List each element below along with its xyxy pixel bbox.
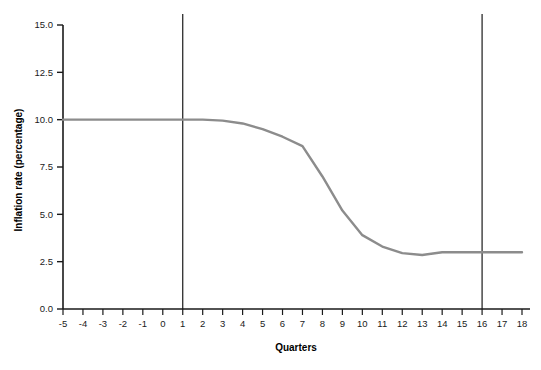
reference-lines bbox=[183, 14, 482, 309]
x-axis-tick-label: 14 bbox=[437, 318, 448, 329]
series-line-inflation-rate bbox=[63, 120, 522, 255]
y-axis-tick-label: 15.0 bbox=[35, 19, 54, 30]
inflation-rate-line-chart: 0.02.55.07.510.012.515.0 -5-4-3-2-101234… bbox=[0, 0, 541, 370]
x-axis-tick-label: 15 bbox=[457, 318, 468, 329]
x-axis-tick-label: 0 bbox=[160, 318, 165, 329]
x-axis-tick-label: 17 bbox=[497, 318, 508, 329]
data-series bbox=[63, 120, 522, 255]
x-axis-tick-label: 16 bbox=[477, 318, 488, 329]
x-axis-title: Quarters bbox=[275, 342, 317, 353]
y-axis: 0.02.55.07.510.012.515.0 bbox=[35, 19, 64, 314]
x-axis-tick-label: 9 bbox=[340, 318, 345, 329]
x-axis-tick-label: 10 bbox=[357, 318, 368, 329]
x-axis-tick-label: -1 bbox=[139, 318, 147, 329]
x-axis-tick-label: -2 bbox=[119, 318, 127, 329]
x-axis-tick-label: 8 bbox=[320, 318, 325, 329]
x-axis-tick-label: 2 bbox=[200, 318, 205, 329]
x-axis-tick-label: 3 bbox=[220, 318, 225, 329]
x-axis: -5-4-3-2-10123456789101112131415161718 bbox=[59, 309, 530, 329]
x-axis-tick-label: 1 bbox=[180, 318, 185, 329]
y-axis-title: Inflation rate (percentage) bbox=[13, 109, 24, 232]
y-axis-tick-label: 5.0 bbox=[40, 209, 53, 220]
y-axis-tick-label: 10.0 bbox=[35, 114, 54, 125]
y-axis-tick-label: 0.0 bbox=[40, 303, 53, 314]
y-axis-tick-label: 7.5 bbox=[40, 161, 53, 172]
x-axis-tick-label: 7 bbox=[300, 318, 305, 329]
y-axis-tick-label: 12.5 bbox=[35, 67, 54, 78]
x-axis-tick-label: -5 bbox=[59, 318, 67, 329]
x-axis-tick-label: 6 bbox=[280, 318, 285, 329]
x-axis-tick-label: 4 bbox=[240, 318, 245, 329]
x-axis-tick-label: 5 bbox=[260, 318, 265, 329]
x-axis-tick-label: 13 bbox=[417, 318, 428, 329]
x-axis-tick-label: 18 bbox=[517, 318, 528, 329]
x-axis-tick-label: 11 bbox=[377, 318, 387, 329]
x-axis-tick-label: -4 bbox=[79, 318, 87, 329]
chart-canvas: 0.02.55.07.510.012.515.0 -5-4-3-2-101234… bbox=[0, 0, 541, 370]
x-axis-tick-label: -3 bbox=[99, 318, 107, 329]
x-axis-tick-label: 12 bbox=[397, 318, 408, 329]
y-axis-tick-label: 2.5 bbox=[40, 256, 53, 267]
